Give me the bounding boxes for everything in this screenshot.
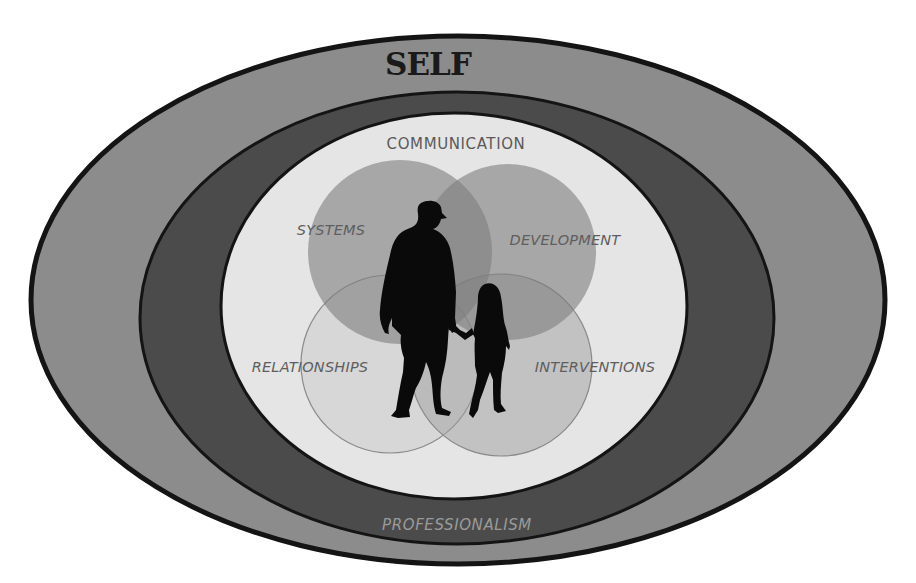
self-professionalism-venn-diagram: SELF COMMUNICATION SYSTEMS DEVELOPMENT R… bbox=[0, 0, 916, 583]
label-self: SELF bbox=[385, 46, 472, 82]
label-professionalism: PROFESSIONALISM bbox=[382, 516, 532, 534]
label-relationships: RELATIONSHIPS bbox=[252, 359, 369, 375]
label-communication: COMMUNICATION bbox=[387, 135, 526, 153]
label-development: DEVELOPMENT bbox=[510, 232, 622, 248]
label-interventions: INTERVENTIONS bbox=[535, 359, 655, 375]
label-systems: SYSTEMS bbox=[297, 222, 365, 238]
